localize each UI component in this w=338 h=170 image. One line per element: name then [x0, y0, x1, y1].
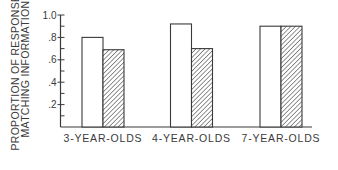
bar-chart: PROPORTION OF RESPONSES MATCHING INFORMA… [0, 0, 338, 170]
y-tick-label: .2 [48, 99, 57, 110]
bars [82, 24, 302, 127]
x-category-label: 7-YEAR-OLDS [242, 132, 321, 144]
y-tick-label: .8 [48, 32, 57, 43]
x-category-label: 4-YEAR-OLDS [152, 132, 231, 144]
bar-group [260, 26, 302, 127]
y-tick-label: 1.0 [43, 10, 57, 21]
open-bar [260, 26, 281, 127]
y-axis-label: PROPORTION OF RESPONSES MATCHING INFORMA… [9, 0, 31, 151]
x-category-label: 3-YEAR-OLDS [64, 132, 143, 144]
open-bar [171, 24, 192, 127]
bar-group [82, 37, 124, 127]
hatched-bar [192, 49, 213, 127]
y-tick-label: .4 [48, 77, 57, 88]
y-axis-label-line-2: MATCHING INFORMATION [19, 1, 31, 138]
x-axis-category-labels: 3-YEAR-OLDS4-YEAR-OLDS7-YEAR-OLDS [64, 132, 321, 144]
bar-group [171, 24, 213, 127]
open-bar [82, 37, 103, 127]
hatched-bar [103, 50, 124, 127]
y-axis-ticks: .2.4.6.81.0 [43, 10, 65, 116]
hatched-bar [281, 26, 302, 127]
y-tick-label: .6 [48, 54, 57, 65]
